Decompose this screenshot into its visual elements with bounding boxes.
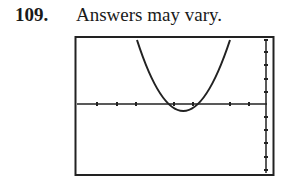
calculator-graph xyxy=(0,0,283,182)
parabola-curve xyxy=(137,40,230,111)
